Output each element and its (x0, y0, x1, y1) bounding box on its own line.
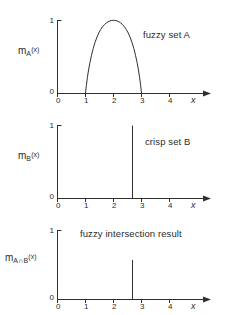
x-tick-label-1: 1 (79, 97, 93, 105)
x-tick-label-3: 3 (135, 303, 149, 311)
y-axis-label: mA(x) (18, 44, 39, 59)
x-tick-label-0: 0 (51, 303, 65, 311)
panel-crisp-set-b: 1 0 0 1 2 3 4 x mB(x) crisp set B (0, 105, 230, 210)
panel-a-annotation: fuzzy set A (143, 30, 190, 40)
x-axis-label: x (191, 201, 196, 210)
x-tick-label-3: 3 (135, 97, 149, 105)
fuzzy-set-intersection-figure: 1 0 0 1 2 3 4 x mA(x) fuzzy set A 1 0 0 (0, 0, 230, 315)
x-axis-arrow-icon (203, 196, 211, 202)
x-axis-arrow-icon (203, 91, 211, 97)
x-tick-label-2: 2 (107, 202, 121, 210)
x-tick-label-1: 1 (79, 303, 93, 311)
y-tick-label-1: 1 (44, 122, 54, 130)
x-axis-arrow-icon (203, 297, 211, 303)
y-axis-label: mA∩B(x) (5, 251, 37, 266)
y-tick-label-0: 0 (44, 193, 54, 201)
y-tick-label-0: 0 (44, 294, 54, 302)
x-tick-label-3: 3 (135, 202, 149, 210)
panel-fuzzy-set-a: 1 0 0 1 2 3 4 x mA(x) fuzzy set A (0, 0, 230, 105)
x-tick-label-4: 4 (163, 97, 177, 105)
membership-curve-a (86, 20, 142, 93)
x-tick-label-2: 2 (107, 97, 121, 105)
y-axis-label-argument: (x) (31, 151, 39, 158)
x-axis-label: x (191, 96, 196, 105)
y-tick-label-0: 0 (44, 88, 54, 96)
panel-fuzzy-intersection: 1 0 0 1 2 3 4 x mA∩B(x) fuzzy intersecti… (0, 210, 230, 315)
x-tick-label-2: 2 (107, 303, 121, 311)
y-axis-label-argument: (x) (28, 253, 36, 260)
x-tick-label-0: 0 (51, 97, 65, 105)
x-tick-label-1: 1 (79, 202, 93, 210)
x-tick-label-0: 0 (51, 202, 65, 210)
x-tick-label-4: 4 (163, 303, 177, 311)
y-axis-label: mB(x) (18, 149, 39, 164)
x-tick-label-4: 4 (163, 202, 177, 210)
panel-anb-annotation: fuzzy intersection result (80, 229, 182, 239)
y-axis-label-argument: (x) (31, 46, 39, 53)
y-tick-label-1: 1 (44, 17, 54, 25)
y-tick-label-1: 1 (44, 227, 54, 235)
x-axis-label: x (191, 302, 196, 311)
panel-b-annotation: crisp set B (145, 137, 190, 147)
y-axis-label-subscript: A∩B (13, 257, 28, 264)
